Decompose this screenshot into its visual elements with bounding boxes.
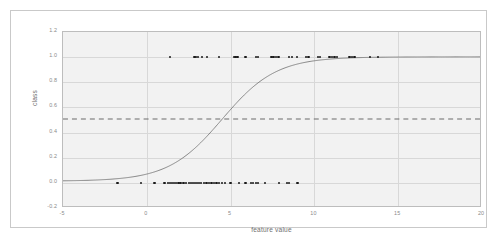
x-tick-label: 15 <box>379 211 415 216</box>
x-tick-label: 5 <box>212 211 248 216</box>
figure-root: class -0.20.00.20.40.60.81.01.2 -5051015… <box>0 0 497 240</box>
decision-threshold-line <box>63 32 480 206</box>
scatter-point <box>236 56 238 58</box>
y-tick-label: 0.8 <box>27 78 57 83</box>
scatter-point <box>224 182 226 184</box>
y-tick-label: 0.6 <box>27 103 57 108</box>
scatter-point <box>218 182 220 184</box>
x-tick-label: 0 <box>128 211 164 216</box>
x-tick-label: 10 <box>295 211 331 216</box>
plot-area <box>62 31 481 207</box>
scatter-point <box>116 182 118 184</box>
y-tick-label: 0.0 <box>27 179 57 184</box>
y-tick-label: 0.4 <box>27 129 57 134</box>
x-tick-label: -5 <box>44 211 80 216</box>
figure-frame: class -0.20.00.20.40.60.81.01.2 -5051015… <box>10 10 487 228</box>
y-tick-label: 1.2 <box>27 28 57 33</box>
scatter-point <box>179 182 181 184</box>
scatter-point <box>153 182 155 184</box>
scatter-point <box>296 182 298 184</box>
scatter-point <box>277 56 279 58</box>
x-axis-title: feature value <box>62 226 481 233</box>
x-tick-label: 20 <box>463 211 497 216</box>
scatter-point <box>229 182 231 184</box>
y-tick-label: 0.2 <box>27 154 57 159</box>
scatter-point <box>163 182 165 184</box>
y-tick-label: 1.0 <box>27 53 57 58</box>
y-tick-label: -0.2 <box>27 204 57 209</box>
scatter-point <box>244 182 246 184</box>
